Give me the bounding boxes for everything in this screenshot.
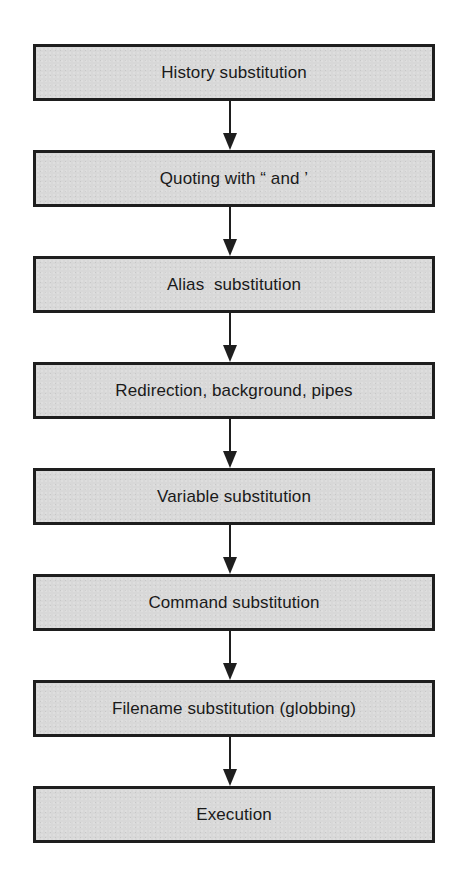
step-alias-substitution: Alias substitution: [33, 256, 435, 313]
step-quoting: Quoting with “ and ’: [33, 150, 435, 207]
step-redirection: Redirection, background, pipes: [33, 362, 435, 419]
down-arrow-icon: [222, 419, 238, 468]
down-arrow-icon: [222, 525, 238, 574]
step-label: Variable substitution: [157, 487, 311, 507]
step-label: Command substitution: [148, 593, 319, 613]
step-command-substitution: Command substitution: [33, 574, 435, 631]
down-arrow-icon: [222, 207, 238, 256]
step-label: History substitution: [161, 63, 307, 83]
step-execution: Execution: [33, 786, 435, 843]
step-variable-substitution: Variable substitution: [33, 468, 435, 525]
step-filename-substitution: Filename substitution (globbing): [33, 680, 435, 737]
flowchart: History substitution Quoting with “ and …: [0, 0, 462, 881]
step-history-substitution: History substitution: [33, 44, 435, 101]
step-label: Filename substitution (globbing): [112, 699, 356, 719]
down-arrow-icon: [222, 101, 238, 150]
step-label: Alias substitution: [167, 275, 301, 295]
step-label: Execution: [196, 805, 272, 825]
step-label: Quoting with “ and ’: [160, 169, 308, 189]
step-label: Redirection, background, pipes: [115, 381, 352, 401]
down-arrow-icon: [222, 313, 238, 362]
down-arrow-icon: [222, 737, 238, 786]
down-arrow-icon: [222, 631, 238, 680]
